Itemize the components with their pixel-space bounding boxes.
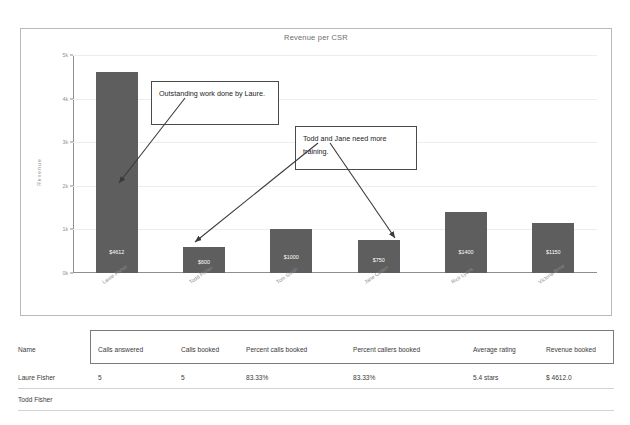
gridline <box>73 55 597 56</box>
screenshot-root: Revenue per CSR 0k1k2k3k4k5k $4612$600$1… <box>0 0 630 425</box>
chart-title: Revenue per CSR <box>21 33 611 42</box>
bar[interactable]: $1150 <box>532 223 574 273</box>
bar-value-label: $600 <box>183 259 225 265</box>
cell-value: 5 <box>98 374 102 381</box>
column-header: Average rating <box>473 346 516 353</box>
y-tick-mark <box>70 185 73 186</box>
column-header: Calls booked <box>181 346 219 353</box>
bar-value-label: $750 <box>358 257 400 263</box>
cell-value: 83.33% <box>353 374 375 381</box>
bar-value-label: $1150 <box>532 249 574 255</box>
y-tick-label: 3k <box>63 139 68 145</box>
y-tick-label: 1k <box>63 226 68 232</box>
y-tick-label: 4k <box>63 96 68 102</box>
y-tick-label: 5k <box>63 52 68 58</box>
bar-value-label: $4612 <box>96 249 138 255</box>
x-axis <box>73 272 597 273</box>
y-axis-title: Revenue <box>36 158 42 186</box>
annotation-callout-laure[interactable]: Outstanding work done by Laure. <box>151 81 279 125</box>
cell-name: Todd Fisher <box>18 396 52 403</box>
column-header: Percent calls booked <box>246 346 307 353</box>
bar-value-label: $1000 <box>270 254 312 260</box>
y-tick-mark <box>70 55 73 56</box>
column-header: Percent callers booked <box>353 346 420 353</box>
bar-value-label: $1400 <box>445 249 487 255</box>
cell-value: 83.33% <box>246 374 268 381</box>
gridline <box>73 229 597 230</box>
cell-value: 5.4 stars <box>473 374 498 381</box>
y-tick-mark <box>70 98 73 99</box>
cell-value: $ 4612.0 <box>546 374 572 381</box>
y-tick-label: 2k <box>63 183 68 189</box>
bar[interactable]: $1400 <box>445 212 487 273</box>
y-axis <box>73 55 74 273</box>
annotation-callout-todd-jane[interactable]: Todd and Jane need more training. <box>295 126 417 170</box>
column-header: Revenue booked <box>546 346 596 353</box>
y-tick-mark <box>70 229 73 230</box>
y-tick-mark <box>70 273 73 274</box>
table-header-row: NameCalls answeredCalls bookedPercent ca… <box>18 336 614 362</box>
column-header: Calls answered <box>98 346 143 353</box>
column-header-name: Name <box>18 346 36 353</box>
bar[interactable]: $1000 <box>270 229 312 273</box>
bar[interactable]: $4612 <box>96 72 138 273</box>
y-tick-mark <box>70 142 73 143</box>
row-divider <box>18 410 614 411</box>
table-row: Todd Fisher <box>18 388 614 410</box>
gridline <box>73 186 597 187</box>
cell-value: 5 <box>181 374 185 381</box>
data-table: NameCalls answeredCalls bookedPercent ca… <box>18 330 614 418</box>
y-tick-label: 0k <box>63 270 68 276</box>
chart-container: Revenue per CSR 0k1k2k3k4k5k $4612$600$1… <box>20 28 612 316</box>
table-row: Laure Fisher5583.33%83.33%5.4 stars$ 461… <box>18 366 614 388</box>
cell-name: Laure Fisher <box>18 374 55 381</box>
